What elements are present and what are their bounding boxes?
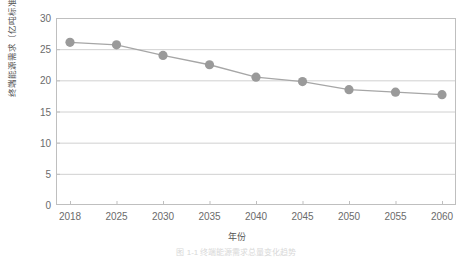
x-axis-title: 年份 — [0, 230, 473, 243]
x-tick-label: 2060 — [431, 211, 453, 222]
data-point-marker — [344, 85, 353, 94]
x-tick-label: 2030 — [152, 211, 174, 222]
data-point-marker — [298, 77, 307, 86]
data-point-marker — [65, 38, 74, 47]
y-tick-label: 25 — [40, 44, 51, 55]
y-tick-label: 5 — [45, 168, 51, 179]
x-tick-label: 2025 — [105, 211, 127, 222]
y-tick-label: 20 — [40, 75, 51, 86]
data-point-marker — [112, 40, 121, 49]
x-tick-label: 2040 — [245, 211, 267, 222]
figure-caption: 图 1-1 终端能源需求总量变化趋势 — [0, 246, 473, 257]
y-tick-label: 0 — [45, 200, 51, 211]
x-tick-label: 2045 — [291, 211, 313, 222]
x-tick-label: 2050 — [338, 211, 360, 222]
data-point-marker — [158, 51, 167, 60]
y-tick-label: 30 — [40, 13, 51, 24]
x-tick-label: 2055 — [384, 211, 406, 222]
data-point-marker — [205, 60, 214, 69]
y-tick-label: 15 — [40, 106, 51, 117]
plot-area: 051015202530 201820252030203520402045205… — [56, 18, 456, 205]
data-point-marker — [437, 90, 446, 99]
x-tick-label: 2035 — [198, 211, 220, 222]
x-tick-label: 2018 — [59, 211, 81, 222]
line-chart-canvas — [56, 18, 456, 205]
data-point-marker — [391, 88, 400, 97]
y-axis-title: 终端能源需求（亿吨标准煤） — [5, 0, 17, 133]
y-tick-label: 10 — [40, 137, 51, 148]
data-point-marker — [251, 73, 260, 82]
chart-figure: 终端能源需求（亿吨标准煤） 051015202530 2018202520302… — [0, 0, 473, 257]
